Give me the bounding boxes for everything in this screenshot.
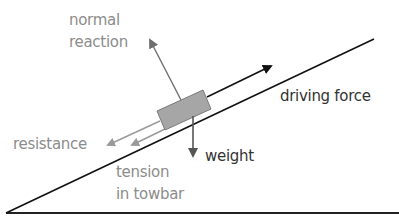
label-tension-1: tension xyxy=(116,162,169,182)
vehicle-block xyxy=(157,90,211,130)
label-normal-reaction-2: reaction xyxy=(69,32,128,52)
incline-line xyxy=(6,39,374,213)
label-weight: weight xyxy=(205,146,254,166)
force-diagram: normal reaction driving force resistance… xyxy=(0,0,399,216)
label-tension-2: in towbar xyxy=(116,184,184,204)
diagram-graphic xyxy=(0,0,399,216)
label-normal-reaction-1: normal xyxy=(69,10,120,30)
resistance-arrow xyxy=(108,121,160,145)
label-resistance: resistance xyxy=(13,134,87,154)
normal-reaction-arrow xyxy=(150,40,181,100)
label-driving-force: driving force xyxy=(280,86,371,106)
